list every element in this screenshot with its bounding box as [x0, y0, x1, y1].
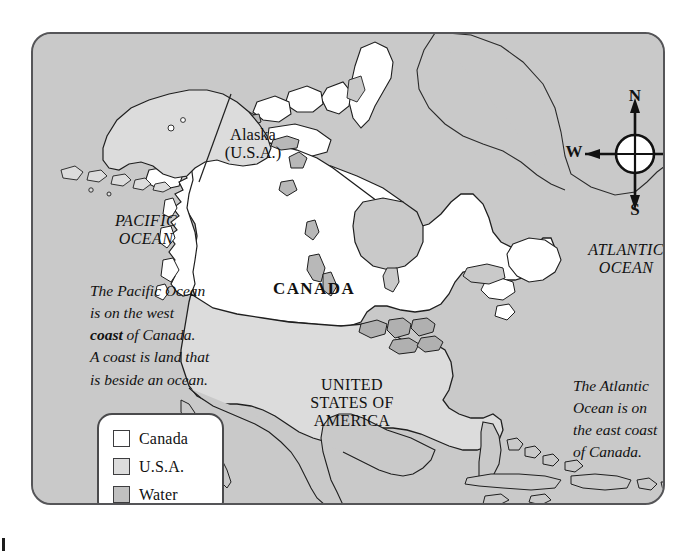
map-legend: Canada U.S.A. Water [97, 413, 224, 505]
pacific-note-line-5: is beside an ocean. [90, 371, 208, 388]
legend-item-usa: U.S.A. [113, 453, 222, 480]
label-atlantic-ocean: ATLANTIC OCEAN [566, 241, 665, 277]
label-canada: CANADA [273, 279, 355, 298]
legend-item-water: Water [113, 481, 222, 505]
legend-label-usa: U.S.A. [139, 458, 184, 476]
compass-label-south: S [620, 200, 650, 220]
legend-label-canada: Canada [139, 430, 188, 448]
label-alaska: Alaska (U.S.A.) [193, 126, 313, 163]
pacific-note-line-2: is on the west [90, 304, 174, 321]
compass-label-west: W [559, 142, 589, 162]
legend-item-canada: Canada [113, 425, 222, 452]
page-edge-artifact [2, 538, 5, 551]
atlantic-ocean-note: The Atlantic Ocean is on the east coast … [573, 375, 665, 464]
page-canvas: Alaska (U.S.A.) PACIFIC OCEAN ATLANTIC O… [0, 0, 693, 557]
atlantic-note-line-1: The Atlantic [573, 377, 649, 394]
atlantic-note-line-4: of Canada. [573, 443, 642, 460]
map-frame: Alaska (U.S.A.) PACIFIC OCEAN ATLANTIC O… [31, 32, 665, 505]
pacific-note-line-1: The Pacific Ocean [90, 282, 205, 299]
compass-rose: N S W E [584, 86, 665, 222]
pacific-note-line-3-rest: of Canada. [123, 326, 196, 343]
atlantic-note-line-2: Ocean is on [573, 399, 647, 416]
legend-swatch-usa [113, 458, 130, 475]
label-united-states: UNITED STATES OF AMERICA [292, 376, 412, 430]
legend-label-water: Water [139, 486, 178, 504]
pacific-note-bold-coast: coast [90, 326, 123, 343]
compass-label-north: N [620, 86, 650, 106]
legend-swatch-canada [113, 430, 130, 447]
label-pacific-ocean: PACIFIC OCEAN [85, 212, 207, 248]
pacific-note-line-4: A coast is land that [90, 348, 209, 365]
pacific-ocean-note: The Pacific Ocean is on the west coast o… [90, 280, 230, 391]
atlantic-note-line-3: the east coast [573, 421, 657, 438]
legend-swatch-water [113, 486, 130, 503]
